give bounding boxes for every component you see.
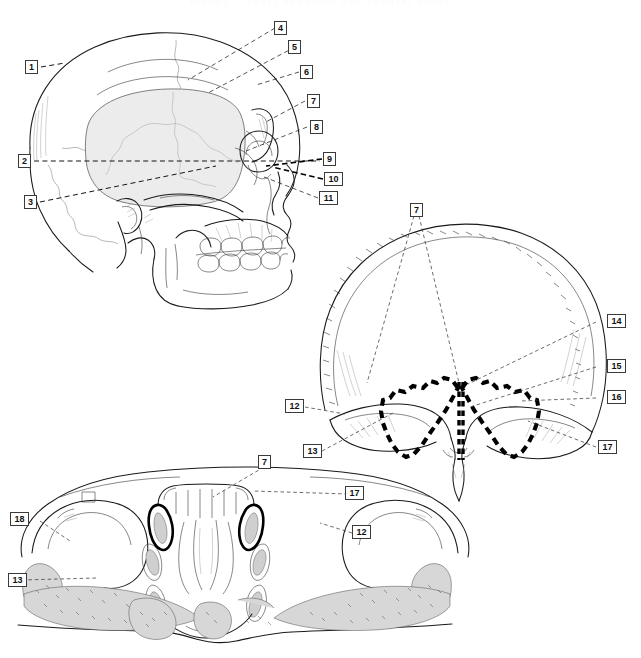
anatomical-line-art	[0, 0, 641, 658]
callout-frontal-12[interactable]: 12	[285, 399, 304, 413]
callout-frontal-13[interactable]: 13	[303, 444, 322, 458]
callout-axial-13[interactable]: 13	[8, 573, 27, 587]
frontal-bone-drawing	[320, 224, 606, 501]
callout-5[interactable]: 5	[288, 40, 301, 54]
callout-frontal-17[interactable]: 17	[598, 440, 617, 454]
callout-8[interactable]: 8	[310, 120, 323, 134]
figure-canvas: FIGURE — SKULL SECTIONS AND FRONTAL SINU…	[0, 0, 641, 658]
lateral-skull-drawing	[30, 33, 300, 309]
callout-frontal-16[interactable]: 16	[607, 390, 626, 404]
callout-2[interactable]: 2	[18, 154, 31, 168]
callout-6[interactable]: 6	[300, 65, 313, 79]
callout-10[interactable]: 10	[324, 172, 343, 186]
callout-axial-18[interactable]: 18	[10, 512, 29, 526]
callout-frontal-15[interactable]: 15	[607, 359, 626, 373]
callout-1[interactable]: 1	[25, 60, 38, 74]
callout-axial-12[interactable]: 12	[352, 525, 371, 539]
callout-axial-17[interactable]: 17	[345, 486, 364, 500]
callout-frontal-14[interactable]: 14	[607, 314, 626, 328]
callout-frontal-7[interactable]: 7	[410, 203, 423, 217]
axial-section-drawing	[18, 467, 469, 643]
callout-11[interactable]: 11	[319, 191, 338, 205]
frontal-leader-lines	[305, 216, 596, 451]
callout-9[interactable]: 9	[323, 152, 336, 166]
callout-3[interactable]: 3	[24, 195, 37, 209]
callout-7[interactable]: 7	[307, 94, 320, 108]
callout-axial-7[interactable]: 7	[258, 455, 271, 469]
callout-4[interactable]: 4	[274, 21, 287, 35]
